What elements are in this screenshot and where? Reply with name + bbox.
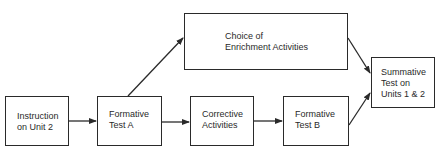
node-label: Choice of Enrichment Activities xyxy=(225,31,308,53)
node-enrichment-activities: Choice of Enrichment Activities xyxy=(184,13,348,70)
arrow-formative-b-to-summative xyxy=(349,93,370,125)
node-label: Corrective Activities xyxy=(202,109,243,131)
node-summative-test: Summative Test on Units 1 & 2 xyxy=(371,57,435,108)
node-label: Summative Test on Units 1 & 2 xyxy=(381,67,426,100)
node-label: Formative Test A xyxy=(109,109,149,131)
flowchart-canvas: Instruction on Unit 2 Formative Test A C… xyxy=(0,0,441,152)
arrow-enrichment-to-summative xyxy=(348,38,370,73)
node-formative-test-b: Formative Test B xyxy=(283,96,349,146)
node-formative-test-a: Formative Test A xyxy=(97,96,162,146)
node-corrective-activities: Corrective Activities xyxy=(190,96,254,146)
node-instruction-unit-2: Instruction on Unit 2 xyxy=(5,96,69,146)
node-label: Formative Test B xyxy=(295,109,335,131)
arrow-formative-a-to-enrichment xyxy=(128,38,183,96)
node-label: Instruction on Unit 2 xyxy=(17,111,59,133)
